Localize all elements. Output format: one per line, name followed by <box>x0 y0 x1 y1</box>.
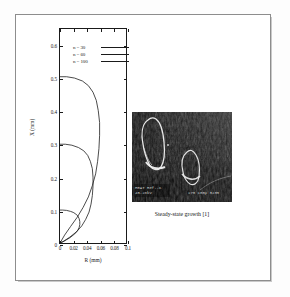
y-tick <box>124 145 127 146</box>
y-tick <box>124 179 127 180</box>
x-tick-label: 0.06 <box>97 245 105 251</box>
figure-root: 00.10.20.30.40.50.600.020.040.060.080.1 … <box>0 0 290 297</box>
x-tick <box>60 29 61 32</box>
x-tick <box>128 241 129 244</box>
legend-line-n60 <box>101 54 129 55</box>
photo-caption: Steady-state growth [1] <box>155 211 209 217</box>
x-tick <box>74 241 75 244</box>
x-tick <box>114 241 115 244</box>
micrograph-block: HEAT Ref.-C 45-28kV X70 100µ 3235 Steady… <box>132 112 242 232</box>
y-tick-label: 0.4 <box>51 109 57 115</box>
y-tick <box>124 212 127 213</box>
y-tick-label: 0.2 <box>51 176 57 182</box>
overlay-text-left-1: HEAT Ref.-C <box>135 186 162 190</box>
legend-line-n100 <box>101 61 129 62</box>
legend-item: n = 30 <box>73 44 129 50</box>
y-tick <box>60 46 63 47</box>
x-tick-label: 0.04 <box>83 245 91 251</box>
curve-n-60 <box>60 144 93 243</box>
legend-label-n30: n = 30 <box>73 45 99 50</box>
y-tick <box>124 112 127 113</box>
y-tick <box>60 145 63 146</box>
x-tick-label: 0 <box>59 245 61 251</box>
x-tick <box>87 29 88 32</box>
x-axis-title: R (mm) <box>85 257 102 263</box>
micrograph-content: HEAT Ref.-C 45-28kV X70 100µ 3235 <box>132 112 232 202</box>
y-tick-label: 0.3 <box>51 142 57 148</box>
x-tick <box>87 241 88 244</box>
x-tick <box>60 241 61 244</box>
y-tick-label: 0 <box>55 242 58 248</box>
x-tick-label: 0.02 <box>69 245 77 251</box>
overlay-text-right: X70 100µ 3235 <box>188 191 220 195</box>
y-tick <box>124 79 127 80</box>
y-tick <box>60 212 63 213</box>
legend-label-n60: n = 60 <box>73 52 99 57</box>
y-tick-label: 0.1 <box>51 209 57 215</box>
legend-item: n = 100 <box>73 58 129 64</box>
chart-legend: n = 30 n = 60 n = 100 <box>73 44 129 65</box>
legend-line-n30 <box>101 47 129 48</box>
x-tick <box>101 241 102 244</box>
x-tick <box>101 29 102 32</box>
x-tick <box>74 29 75 32</box>
dendrite-profile-chart: 00.10.20.30.40.50.600.020.040.060.080.1 … <box>13 14 143 259</box>
x-tick <box>128 29 129 32</box>
sem-micrograph: HEAT Ref.-C 45-28kV X70 100µ 3235 <box>132 112 232 202</box>
y-tick <box>60 179 63 180</box>
y-tick <box>60 112 63 113</box>
y-tick-label: 0.5 <box>51 76 57 82</box>
legend-item: n = 60 <box>73 51 129 57</box>
x-tick-label: 0.08 <box>110 245 118 251</box>
y-tick-label: 0.6 <box>51 43 57 49</box>
overlay-text-left-2: 45-28kV <box>135 191 152 195</box>
x-tick <box>114 29 115 32</box>
y-tick <box>60 79 63 80</box>
y-axis-title: X (mm) <box>29 119 35 136</box>
legend-label-n100: n = 100 <box>73 59 99 64</box>
x-tick-label: 0.1 <box>125 245 131 251</box>
curve-n-100 <box>60 77 100 243</box>
